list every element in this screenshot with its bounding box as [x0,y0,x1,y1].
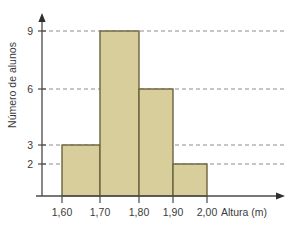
y-axis-title: Número de alunos [6,42,18,128]
y-tick-label-2: 2 [27,158,33,170]
bar-1-60-1-70 [62,145,100,196]
bar-1-70-1-80 [100,31,139,196]
y-tick-label-9: 9 [27,25,33,37]
x-tick-label-2-00: 2,00 [197,206,218,218]
histogram-chart: 9 6 3 2 1,60 1,70 1,80 1,90 2,00 Altura … [0,0,299,225]
bar-1-80-1-90 [139,89,173,196]
y-tick-label-6: 6 [27,83,33,95]
x-tick-label-1-60: 1,60 [52,206,73,218]
chart-canvas: 9 6 3 2 1,60 1,70 1,80 1,90 2,00 Altura … [0,0,299,225]
x-tick-label-1-90: 1,90 [163,206,184,218]
x-tick-label-1-70: 1,70 [90,206,111,218]
x-axis-title: Altura (m) [221,206,267,218]
bar-1-90-2-00 [173,164,207,196]
x-tick-label-1-80: 1,80 [129,206,150,218]
y-tick-label-3: 3 [27,139,33,151]
